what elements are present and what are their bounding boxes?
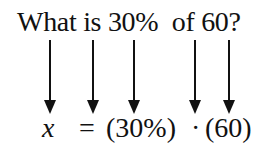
multiply-dot: · xyxy=(191,112,200,144)
equals-sign: = xyxy=(79,112,95,144)
question-text: What is 30% of 60? xyxy=(17,6,241,38)
arrow-down-icon xyxy=(189,40,201,116)
value-term: (60) xyxy=(205,112,252,144)
variable-x: x xyxy=(42,112,54,144)
arrow-down-icon xyxy=(87,40,99,116)
percent-term: (30%) xyxy=(106,112,176,144)
arrow-down-icon xyxy=(128,40,140,116)
arrow-down-icon xyxy=(44,40,56,116)
arrow-down-icon xyxy=(223,40,235,116)
